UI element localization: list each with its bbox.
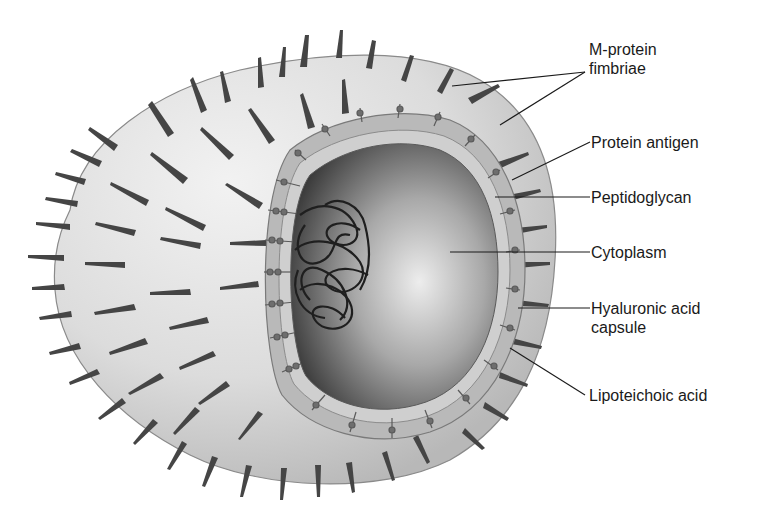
label-m-protein-line2: fimbriae xyxy=(589,59,657,78)
label-lipoteichoic-acid: Lipoteichoic acid xyxy=(589,386,707,405)
label-cytoplasm-text: Cytoplasm xyxy=(591,243,667,262)
label-m-protein-line1: M-protein xyxy=(589,40,657,59)
label-hyaluronic-acid-capsule: Hyaluronic acid capsule xyxy=(591,299,700,337)
cell-diagram: M-protein fimbriae Protein antigen Pepti… xyxy=(0,0,777,523)
cytoplasm-region xyxy=(291,144,498,410)
label-protein-antigen-text: Protein antigen xyxy=(591,133,699,152)
label-lipoteichoic-text: Lipoteichoic acid xyxy=(589,386,707,405)
label-m-protein-fimbriae: M-protein fimbriae xyxy=(589,40,657,78)
label-protein-antigen: Protein antigen xyxy=(591,133,699,152)
label-cytoplasm: Cytoplasm xyxy=(591,243,667,262)
label-hyaluronic-line1: Hyaluronic acid xyxy=(591,299,700,318)
label-hyaluronic-line2: capsule xyxy=(591,318,700,337)
label-peptidoglycan-text: Peptidoglycan xyxy=(591,188,692,207)
label-peptidoglycan: Peptidoglycan xyxy=(591,188,692,207)
